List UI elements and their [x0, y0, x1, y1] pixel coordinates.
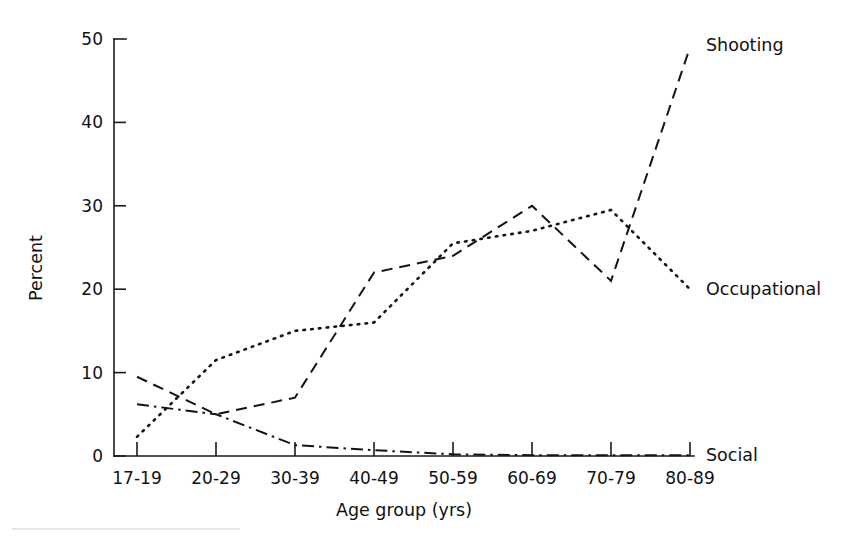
y-axis-ticks	[114, 122, 126, 456]
y-axis-tick-labels: 50 40 30 20 10 0	[81, 29, 103, 466]
series-label-social: Social	[706, 445, 758, 465]
x-axis-tick-labels: 17-19 20-29 30-39 40-49 50-59 60-69 70-7…	[112, 468, 714, 488]
y-ticklabel-0: 0	[92, 446, 103, 466]
y-ticklabel-10: 10	[81, 363, 103, 383]
line-chart: 50 40 30 20 10 0 Percent 17-19 20-29 30-…	[0, 0, 848, 536]
x-ticklabel-7: 80-89	[665, 468, 714, 488]
series-label-occupational: Occupational	[706, 279, 821, 299]
series-label-shooting: Shooting	[706, 35, 784, 55]
x-ticklabel-3: 40-49	[349, 468, 398, 488]
x-ticklabel-1: 20-29	[191, 468, 240, 488]
series-line-social	[137, 404, 690, 455]
x-axis-title: Age group (yrs)	[336, 500, 472, 520]
x-axis-ticks	[137, 442, 690, 456]
figure-container: 50 40 30 20 10 0 Percent 17-19 20-29 30-…	[0, 0, 848, 536]
x-ticklabel-6: 70-79	[586, 468, 635, 488]
y-ticklabel-30: 30	[81, 196, 103, 216]
series-line-shooting	[137, 47, 690, 414]
y-ticklabel-50: 50	[81, 29, 103, 49]
y-ticklabel-40: 40	[81, 112, 103, 132]
x-ticklabel-5: 60-69	[507, 468, 556, 488]
y-axis-title: Percent	[26, 235, 46, 301]
x-ticklabel-0: 17-19	[112, 468, 161, 488]
x-ticklabel-4: 50-59	[428, 468, 477, 488]
y-ticklabel-20: 20	[81, 279, 103, 299]
x-ticklabel-2: 30-39	[270, 468, 319, 488]
series-line-occupational	[137, 210, 690, 437]
